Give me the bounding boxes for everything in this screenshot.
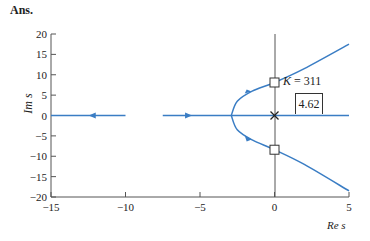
svg-text:5: 5 bbox=[346, 201, 352, 213]
svg-text:−15: −15 bbox=[42, 201, 60, 213]
gain-value: = 311 bbox=[291, 74, 321, 88]
svg-text:0: 0 bbox=[272, 201, 278, 213]
svg-text:5: 5 bbox=[42, 89, 48, 101]
frequency-value-box: 4.62 bbox=[295, 93, 323, 114]
svg-text:−15: −15 bbox=[30, 171, 48, 183]
svg-text:0: 0 bbox=[42, 110, 48, 122]
svg-text:10: 10 bbox=[36, 69, 48, 81]
svg-text:20: 20 bbox=[36, 28, 48, 40]
svg-text:−10: −10 bbox=[30, 150, 48, 162]
svg-text:−5: −5 bbox=[35, 130, 47, 142]
svg-text:−5: −5 bbox=[194, 201, 206, 213]
gain-annotation: K = 311 bbox=[283, 74, 321, 89]
svg-text:15: 15 bbox=[36, 48, 48, 60]
root-locus-plot: 20151050−5−10−15−20 −15−10−505 bbox=[0, 0, 370, 241]
svg-text:−10: −10 bbox=[117, 201, 135, 213]
gain-symbol: K bbox=[283, 74, 291, 88]
locus-branches bbox=[51, 44, 349, 191]
x-ticks: −15−10−505 bbox=[42, 192, 352, 213]
